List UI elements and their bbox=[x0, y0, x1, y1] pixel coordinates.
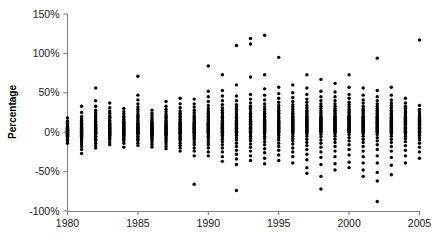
data-point bbox=[277, 149, 280, 152]
data-point bbox=[347, 148, 350, 151]
data-point bbox=[263, 137, 266, 140]
data-point bbox=[376, 179, 379, 182]
data-point bbox=[305, 166, 308, 169]
data-point bbox=[221, 150, 224, 153]
chart-figure: -100%-50%0%50%100%150% 19801985199019952… bbox=[0, 0, 444, 241]
data-point bbox=[221, 103, 224, 106]
data-point bbox=[291, 150, 294, 153]
data-point bbox=[108, 106, 111, 109]
data-point bbox=[305, 144, 308, 147]
data-point bbox=[376, 171, 379, 174]
x-tick-label: 2005 bbox=[408, 217, 432, 229]
data-point bbox=[305, 158, 308, 161]
data-point bbox=[319, 78, 322, 81]
data-point bbox=[333, 168, 336, 171]
data-point bbox=[193, 154, 196, 157]
data-point bbox=[221, 160, 224, 163]
data-point bbox=[277, 153, 280, 156]
data-point bbox=[221, 73, 224, 76]
data-point bbox=[277, 86, 280, 89]
data-point bbox=[235, 142, 238, 145]
data-point bbox=[193, 97, 196, 100]
data-point bbox=[178, 146, 181, 149]
data-point bbox=[263, 102, 266, 105]
data-point bbox=[277, 97, 280, 100]
data-point bbox=[80, 148, 83, 151]
data-point bbox=[319, 99, 322, 102]
data-point bbox=[291, 83, 294, 86]
data-point bbox=[333, 99, 336, 102]
data-point bbox=[305, 141, 308, 144]
data-point bbox=[361, 149, 364, 152]
data-point bbox=[207, 90, 210, 93]
y-tick-marks bbox=[64, 14, 68, 211]
y-axis: -100%-50%0%50%100%150% bbox=[29, 8, 67, 217]
data-point bbox=[249, 93, 252, 96]
data-point bbox=[263, 34, 266, 37]
data-point bbox=[418, 104, 421, 107]
x-tick-label: 1985 bbox=[126, 217, 150, 229]
data-point bbox=[305, 148, 308, 151]
data-point bbox=[249, 159, 252, 162]
data-point bbox=[319, 163, 322, 166]
data-point bbox=[319, 175, 322, 178]
data-point bbox=[221, 89, 224, 92]
data-point bbox=[291, 146, 294, 149]
data-point bbox=[361, 134, 364, 137]
data-point bbox=[376, 89, 379, 92]
data-point bbox=[376, 161, 379, 164]
data-point bbox=[277, 145, 280, 148]
data-point bbox=[376, 148, 379, 151]
data-point bbox=[235, 189, 238, 192]
data-point bbox=[390, 156, 393, 159]
data-point bbox=[277, 56, 280, 59]
data-point bbox=[94, 146, 97, 149]
data-point bbox=[390, 134, 393, 137]
data-point bbox=[249, 97, 252, 100]
data-point bbox=[193, 102, 196, 105]
data-point bbox=[178, 106, 181, 109]
data-point bbox=[347, 73, 350, 76]
data-point bbox=[361, 168, 364, 171]
data-point bbox=[207, 146, 210, 149]
data-point bbox=[263, 93, 266, 96]
data-point bbox=[333, 82, 336, 85]
data-point bbox=[305, 86, 308, 89]
data-point bbox=[235, 83, 238, 86]
data-point bbox=[361, 145, 364, 148]
x-tick-label: 1995 bbox=[267, 217, 291, 229]
data-point bbox=[193, 105, 196, 108]
data-point bbox=[122, 107, 125, 110]
data-point bbox=[291, 91, 294, 94]
data-point bbox=[376, 154, 379, 157]
data-point bbox=[235, 44, 238, 47]
data-point bbox=[94, 86, 97, 89]
data-point bbox=[390, 138, 393, 141]
data-point bbox=[376, 99, 379, 102]
data-point bbox=[249, 101, 252, 104]
data-point bbox=[333, 134, 336, 137]
data-point bbox=[150, 108, 153, 111]
data-point bbox=[80, 145, 83, 148]
data-point bbox=[291, 161, 294, 164]
data-point bbox=[136, 102, 139, 105]
data-point bbox=[291, 100, 294, 103]
data-point bbox=[207, 104, 210, 107]
data-point bbox=[333, 138, 336, 141]
data-point bbox=[221, 140, 224, 143]
data-point bbox=[235, 163, 238, 166]
data-point bbox=[333, 95, 336, 98]
data-point bbox=[207, 150, 210, 153]
data-point bbox=[207, 143, 210, 146]
data-point bbox=[333, 149, 336, 152]
data-point bbox=[376, 200, 379, 203]
data-point bbox=[347, 153, 350, 156]
data-point bbox=[361, 98, 364, 101]
data-point bbox=[249, 42, 252, 45]
data-point bbox=[178, 97, 181, 100]
data-point bbox=[404, 101, 407, 104]
data-point bbox=[66, 116, 69, 119]
data-point bbox=[263, 157, 266, 160]
data-point bbox=[404, 149, 407, 152]
data-point bbox=[347, 160, 350, 163]
